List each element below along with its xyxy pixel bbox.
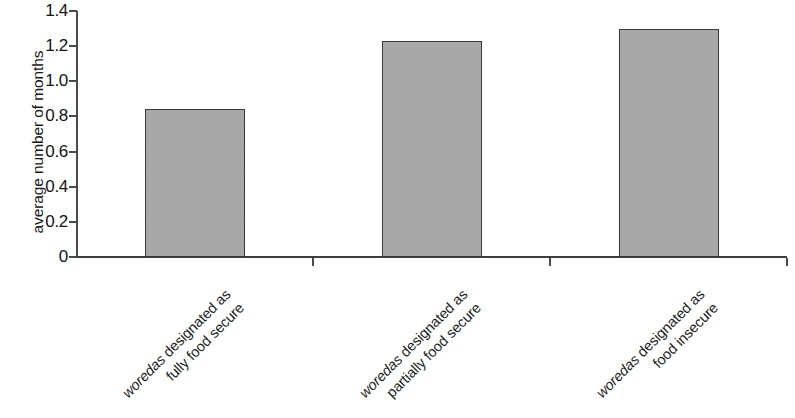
y-axis-tick-label-text: 0.2 — [26, 213, 68, 230]
bar — [145, 109, 245, 257]
bar — [619, 29, 719, 257]
x-axis-category-label: woredas designated asfood insecure — [511, 286, 722, 418]
y-axis-line — [76, 11, 78, 258]
y-axis-tick-label-text: 0 — [26, 248, 68, 265]
x-axis-tick-mark — [549, 258, 551, 266]
x-axis-tick-mark — [312, 258, 314, 266]
bar — [382, 41, 482, 257]
x-axis-category-label: woredas designated aspartially food secu… — [274, 286, 485, 418]
bar-chart: average number of months 00.20.40.60.81.… — [0, 0, 795, 418]
y-axis-tick-label-text: 0.6 — [26, 143, 68, 160]
y-axis-tick-label-text: 1.4 — [26, 2, 68, 19]
y-axis-tick-label-text: 0.4 — [26, 178, 68, 195]
y-axis-tick-label-text: 1.0 — [26, 72, 68, 89]
y-axis-tick-label-text: 0.8 — [26, 107, 68, 124]
x-axis-category-label: woredas designated asfully food secure — [37, 286, 248, 418]
x-axis-tick-mark — [786, 258, 788, 266]
y-axis-tick-label-text: 1.2 — [26, 37, 68, 54]
